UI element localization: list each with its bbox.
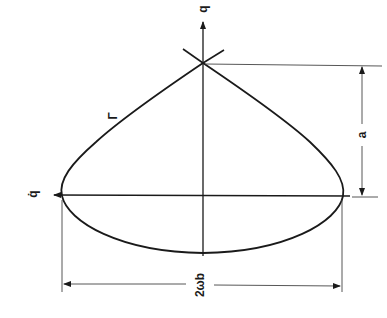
label-gamma: Γ (107, 112, 119, 119)
diagram-drawing (0, 0, 387, 318)
q-dot-axis (54, 195, 350, 196)
tangent-left-extension (203, 50, 224, 63)
label-dimension-a: a (356, 132, 368, 139)
label-q-dot-axis: q̇ (27, 190, 39, 197)
dim-2wb-arrow-right (214, 285, 340, 286)
label-q-axis: q (197, 5, 209, 12)
label-dimension-2wb: 2ωb (194, 273, 206, 297)
tangent-right-extension (183, 49, 203, 63)
phase-diagram: q q̇ Γ a 2ωb (0, 0, 387, 318)
dim-a-top-extension (205, 64, 382, 66)
